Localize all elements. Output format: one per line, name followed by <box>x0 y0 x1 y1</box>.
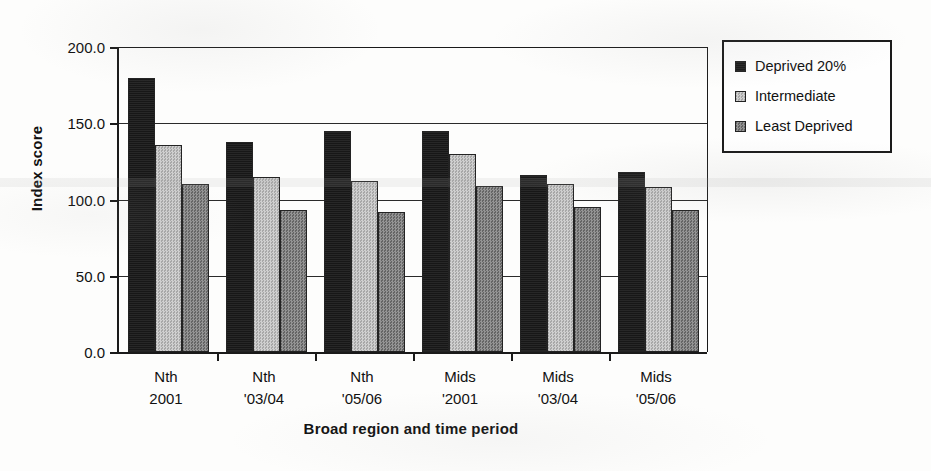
x-axis-tick-label: Nth2001 <box>117 366 215 410</box>
legend-items: Deprived 20%IntermediateLeast Deprived <box>735 51 880 141</box>
x-axis-tick-label-line: Nth <box>215 366 313 388</box>
bar <box>618 172 645 352</box>
x-axis-tick-label-line: '03/04 <box>215 388 313 410</box>
bar <box>574 207 601 352</box>
x-axis-tick-label: Nth'03/04 <box>215 366 313 410</box>
legend-swatch-icon <box>735 91 746 102</box>
x-axis-title: Broad region and time period <box>117 420 705 437</box>
x-axis-tick <box>413 352 415 361</box>
x-axis-tick-label: Mids'2001 <box>411 366 509 410</box>
bar <box>253 177 280 352</box>
bar-group <box>520 47 601 352</box>
plot-frame-right <box>707 47 708 352</box>
x-axis-tick-label-line: Mids <box>607 366 705 388</box>
legend-item-label: Intermediate <box>755 88 836 104</box>
bar <box>672 210 699 352</box>
bar <box>449 154 476 352</box>
bar-chart-figure: Index score 0.050.0100.0150.0200.0 Nth20… <box>0 0 931 471</box>
bar-group <box>226 47 307 352</box>
bar <box>645 187 672 352</box>
bar-group <box>422 47 503 352</box>
x-axis-tick-label-line: '05/06 <box>607 388 705 410</box>
x-axis-tick-label-line: Mids <box>411 366 509 388</box>
bar <box>547 184 574 352</box>
bar <box>378 212 405 352</box>
bar-group <box>128 47 209 352</box>
y-axis-tick-label: 100.0 <box>67 191 105 208</box>
x-axis-tick-label-line: 2001 <box>117 388 215 410</box>
x-axis-tick <box>315 352 317 361</box>
chart-legend: Deprived 20%IntermediateLeast Deprived <box>722 40 892 153</box>
bar <box>476 186 503 352</box>
bar <box>155 145 182 352</box>
x-axis-tick <box>511 352 513 361</box>
x-axis-tick-label: Mids'05/06 <box>607 366 705 410</box>
y-axis-tick <box>110 123 119 125</box>
y-axis-tick <box>110 47 119 49</box>
x-axis-tick-label-line: '03/04 <box>509 388 607 410</box>
x-axis-tick-label-line: '05/06 <box>313 388 411 410</box>
y-axis-title: Index score <box>28 79 45 259</box>
bar <box>128 78 155 353</box>
bar <box>351 181 378 352</box>
x-axis-tick-label: Mids'03/04 <box>509 366 607 410</box>
bar <box>226 142 253 352</box>
x-axis-tick-label: Nth'05/06 <box>313 366 411 410</box>
bar <box>280 210 307 352</box>
bar <box>520 175 547 352</box>
bar-group <box>618 47 699 352</box>
bar-group <box>324 47 405 352</box>
y-axis-tick <box>110 352 119 354</box>
bar <box>324 131 351 352</box>
bar <box>422 131 449 352</box>
bar <box>182 184 209 352</box>
y-axis-tick-label: 200.0 <box>67 39 105 56</box>
legend-swatch-icon <box>735 121 746 132</box>
legend-item-label: Deprived 20% <box>755 58 846 74</box>
y-axis-tick-label: 0.0 <box>84 344 105 361</box>
x-axis-tick-label-line: '2001 <box>411 388 509 410</box>
y-axis-tick <box>110 200 119 202</box>
legend-item: Deprived 20% <box>735 51 880 81</box>
x-axis-tick <box>609 352 611 361</box>
x-axis-tick-label-line: Mids <box>509 366 607 388</box>
legend-swatch-icon <box>735 61 746 72</box>
y-axis-tick-label: 150.0 <box>67 115 105 132</box>
legend-item: Least Deprived <box>735 111 880 141</box>
plot-area: 0.050.0100.0150.0200.0 <box>117 47 707 354</box>
y-axis-tick <box>110 276 119 278</box>
legend-item-label: Least Deprived <box>755 118 853 134</box>
legend-item: Intermediate <box>735 81 880 111</box>
x-axis-tick <box>217 352 219 361</box>
y-axis-tick-label: 50.0 <box>76 267 105 284</box>
x-axis-tick-label-line: Nth <box>313 366 411 388</box>
x-axis-tick-label-line: Nth <box>117 366 215 388</box>
